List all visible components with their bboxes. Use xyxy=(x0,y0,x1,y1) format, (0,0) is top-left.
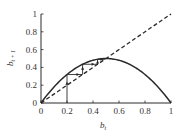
ticks: 00.20.40.60.8100.20.40.60.81 xyxy=(26,9,174,116)
x-tick-label: 1 xyxy=(169,106,174,116)
map-curve xyxy=(41,59,171,104)
x-tick-label: 0 xyxy=(39,106,44,116)
x-tick-label: 0.8 xyxy=(139,106,151,116)
cobweb-path xyxy=(65,58,105,103)
y-tick-label: 0 xyxy=(33,98,38,108)
y-tick-label: 0.8 xyxy=(26,27,38,37)
x-tick-label: 0.6 xyxy=(113,106,125,116)
y-tick-label: 0.4 xyxy=(26,62,38,72)
x-axis-label: bt xyxy=(100,120,107,131)
x-tick-label: 0.2 xyxy=(61,106,72,116)
cobweb-chart: 00.20.40.60.8100.20.40.60.81 bt bt + 1 xyxy=(0,0,179,138)
y-tick-label: 0.6 xyxy=(26,45,38,55)
x-tick-label: 0.4 xyxy=(87,106,99,116)
y-tick-label: 0.2 xyxy=(26,80,37,90)
y-tick-label: 1 xyxy=(33,9,38,19)
y-axis-label: bt + 1 xyxy=(5,50,16,66)
